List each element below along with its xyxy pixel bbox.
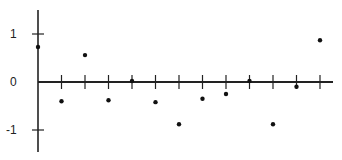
data-point [224, 92, 228, 96]
axes [38, 10, 333, 152]
y-tick-label: 1 [10, 27, 17, 41]
data-point [247, 79, 251, 83]
data-point [318, 38, 322, 42]
data-point [36, 45, 40, 49]
y-tick-label: 0 [10, 75, 17, 89]
y-tick-label: -1 [6, 123, 17, 137]
data-point [177, 122, 181, 126]
data-point [271, 122, 275, 126]
data-point [294, 85, 298, 89]
scatter-chart: 10-1 [0, 0, 342, 160]
data-point [59, 99, 63, 103]
data-point [200, 97, 204, 101]
data-point [106, 98, 110, 102]
data-point [83, 53, 87, 57]
data-point [130, 79, 134, 83]
data-point [153, 100, 157, 104]
